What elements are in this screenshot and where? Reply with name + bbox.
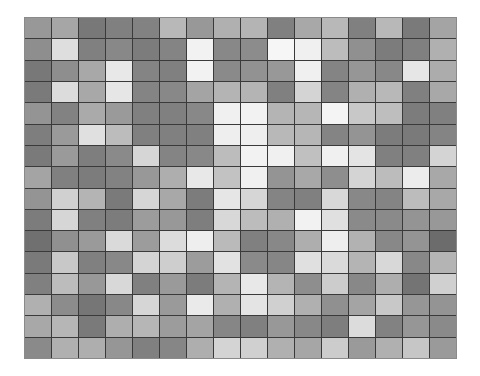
tile: [349, 338, 375, 358]
tile: [349, 103, 375, 123]
tile: [79, 167, 105, 187]
tile: [295, 125, 321, 145]
tile: [187, 338, 213, 358]
tile: [376, 274, 402, 294]
tile: [133, 252, 159, 272]
tile: [106, 231, 132, 251]
tile: [322, 189, 348, 209]
tile: [133, 231, 159, 251]
tile: [79, 125, 105, 145]
tile: [106, 103, 132, 123]
tile: [187, 274, 213, 294]
tile: [214, 210, 240, 230]
tile: [106, 61, 132, 81]
tile: [349, 39, 375, 59]
tile: [25, 338, 51, 358]
tile: [322, 167, 348, 187]
tile: [79, 146, 105, 166]
tile: [403, 252, 429, 272]
tile: [52, 252, 78, 272]
tile: [295, 295, 321, 315]
tile: [403, 82, 429, 102]
tile: [268, 167, 294, 187]
tile: [52, 167, 78, 187]
tile: [106, 146, 132, 166]
tile: [349, 252, 375, 272]
tile: [241, 82, 267, 102]
tile: [25, 189, 51, 209]
tile: [376, 231, 402, 251]
tile: [187, 295, 213, 315]
tile: [241, 103, 267, 123]
tile: [106, 167, 132, 187]
tile: [430, 338, 456, 358]
tile: [376, 252, 402, 272]
tile: [403, 316, 429, 336]
tile: [52, 338, 78, 358]
tile: [160, 103, 186, 123]
tile: [241, 295, 267, 315]
tile: [25, 125, 51, 145]
tile: [25, 103, 51, 123]
tile: [322, 252, 348, 272]
tile: [79, 210, 105, 230]
tile: [25, 231, 51, 251]
tile: [295, 189, 321, 209]
tile: [187, 39, 213, 59]
tile: [241, 146, 267, 166]
tile: [268, 103, 294, 123]
tile: [214, 146, 240, 166]
tile: [430, 18, 456, 38]
tile: [133, 167, 159, 187]
tile: [214, 61, 240, 81]
tile: [106, 18, 132, 38]
tile: [403, 146, 429, 166]
tile: [268, 274, 294, 294]
tile: [160, 295, 186, 315]
tile: [376, 210, 402, 230]
tile: [295, 146, 321, 166]
tile: [349, 125, 375, 145]
tile: [322, 18, 348, 38]
tile: [322, 61, 348, 81]
image-canvas: [0, 0, 480, 376]
tile: [214, 103, 240, 123]
tile: [430, 231, 456, 251]
tile: [268, 82, 294, 102]
tile: [268, 316, 294, 336]
tile: [268, 39, 294, 59]
tile: [430, 274, 456, 294]
tile: [295, 61, 321, 81]
tile: [430, 189, 456, 209]
tile: [25, 18, 51, 38]
tile: [52, 39, 78, 59]
tile: [295, 338, 321, 358]
tile: [25, 316, 51, 336]
tile: [241, 252, 267, 272]
tile: [430, 167, 456, 187]
tile: [268, 61, 294, 81]
tile: [349, 189, 375, 209]
tile: [52, 316, 78, 336]
tile: [187, 210, 213, 230]
tile: [268, 231, 294, 251]
tile: [322, 316, 348, 336]
tile: [241, 61, 267, 81]
tile: [403, 167, 429, 187]
tile: [376, 61, 402, 81]
tile: [322, 295, 348, 315]
tile: [160, 18, 186, 38]
tile: [214, 18, 240, 38]
tile: [322, 274, 348, 294]
tile: [25, 82, 51, 102]
tile: [295, 252, 321, 272]
tile: [349, 295, 375, 315]
tile: [322, 82, 348, 102]
tile: [52, 82, 78, 102]
tile: [160, 316, 186, 336]
tile: [79, 18, 105, 38]
tile: [160, 61, 186, 81]
tile: [376, 146, 402, 166]
tile: [187, 61, 213, 81]
tile: [25, 39, 51, 59]
